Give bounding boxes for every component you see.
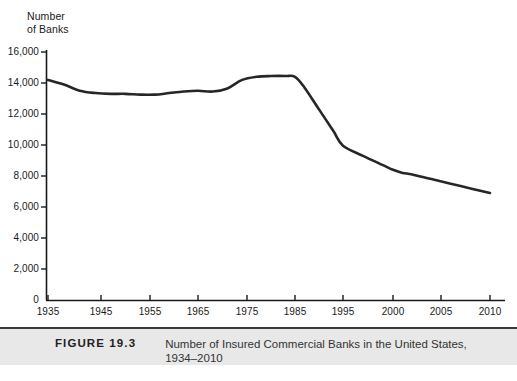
data-series-line <box>48 76 490 193</box>
page-bottom-margin <box>0 365 517 381</box>
figure-number-label: FIGURE 19.3 <box>55 337 136 349</box>
figure-caption-text: Number of Insured Commercial Banks in th… <box>165 337 495 365</box>
figure-caption-band: FIGURE 19.3 Number of Insured Commercial… <box>0 327 517 365</box>
chart-plot-area: Number of Banks 16,000 14,000 12,000 10,… <box>0 0 517 325</box>
figure-container: Number of Banks 16,000 14,000 12,000 10,… <box>0 0 517 381</box>
chart-svg <box>0 0 517 325</box>
x-tick-marks <box>48 295 490 300</box>
